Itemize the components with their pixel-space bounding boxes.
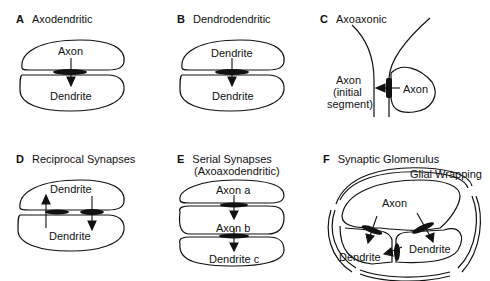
label-axon: Axon: [382, 197, 407, 209]
panel-title-e: ESerial Synapses: [177, 153, 272, 165]
panel-title-c: CAxoaxonic: [320, 13, 387, 25]
label-axon-initial: Axon: [336, 74, 361, 86]
label-dendrite-c: Dendrite c: [209, 253, 259, 265]
label-axon: Axon: [58, 45, 83, 57]
label-axon-terminal: Axon: [403, 83, 428, 95]
panel-subtitle-e: (Axoaxodendritic): [194, 165, 280, 177]
label-dendrite-right: Dendrite: [409, 243, 451, 255]
label-dendrite-top: Dendrite: [50, 183, 92, 195]
panel-title-d: DReciprocal Synapses: [16, 153, 135, 165]
panel-title-b: BDendrodendritic: [177, 13, 271, 25]
label-dendrite: Dendrite: [50, 90, 92, 102]
label-segment: segment): [327, 98, 373, 110]
label-glial-wrapping: Glial Wrapping: [410, 168, 482, 180]
label-dendrite-bottom: Dendrite: [49, 230, 91, 242]
label-dendrite-left: Dendrite: [339, 251, 381, 263]
panel-title-a: AAxodendritic: [16, 13, 93, 25]
label-axon-b: Axon b: [216, 222, 250, 234]
label-dendrite-bottom: Dendrite: [212, 90, 254, 102]
label-axon-a: Axon a: [216, 184, 250, 196]
label-dendrite-top: Dendrite: [211, 47, 253, 59]
panel-title-f: FSynaptic Glomerulus: [323, 153, 439, 165]
label-initial: (initial: [333, 86, 362, 98]
